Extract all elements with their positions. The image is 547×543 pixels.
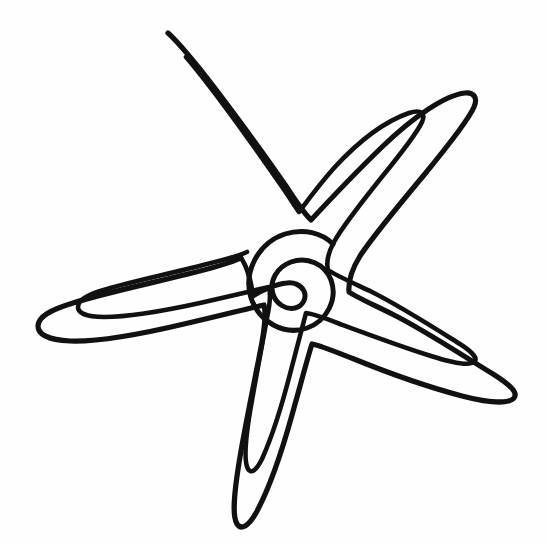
artwork-canvas xyxy=(0,0,547,543)
background-rect xyxy=(0,0,547,543)
starfish-line-drawing xyxy=(0,0,547,543)
